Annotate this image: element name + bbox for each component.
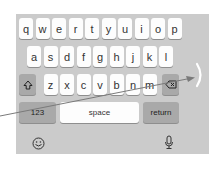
key-u[interactable]: u <box>118 18 132 39</box>
key-p[interactable]: p <box>168 18 182 39</box>
numbers-key[interactable]: 123 <box>19 102 56 123</box>
key-q[interactable]: q <box>19 18 33 39</box>
key-g[interactable]: g <box>93 46 107 67</box>
microphone-icon <box>164 135 174 150</box>
key-o[interactable]: o <box>151 18 165 39</box>
key-h[interactable]: h <box>110 46 124 67</box>
emoji-smiley-icon <box>32 137 45 150</box>
key-n[interactable]: n <box>126 74 140 95</box>
key-c[interactable]: c <box>77 74 91 95</box>
emoji-button[interactable] <box>32 136 45 154</box>
key-s[interactable]: s <box>44 46 58 67</box>
key-w[interactable]: w <box>36 18 50 39</box>
key-r[interactable]: r <box>69 18 83 39</box>
key-y[interactable]: y <box>102 18 116 39</box>
key-f[interactable]: f <box>77 46 91 67</box>
key-k[interactable]: k <box>143 46 157 67</box>
delete-key[interactable] <box>162 74 179 95</box>
key-v[interactable]: v <box>93 74 107 95</box>
key-i[interactable]: i <box>135 18 149 39</box>
key-j[interactable]: j <box>126 46 140 67</box>
shift-key[interactable] <box>19 74 36 95</box>
key-b[interactable]: b <box>110 74 124 95</box>
keyboard: q w e r t y u i o p a s d f g h j k l z … <box>16 14 209 154</box>
key-x[interactable]: x <box>60 74 74 95</box>
key-e[interactable]: e <box>52 18 66 39</box>
microphone-button[interactable] <box>164 135 174 154</box>
key-d[interactable]: d <box>60 46 74 67</box>
return-key[interactable]: return <box>143 102 179 123</box>
shift-arrow-icon <box>23 80 33 90</box>
key-z[interactable]: z <box>44 74 58 95</box>
backspace-icon <box>165 80 177 89</box>
key-m[interactable]: m <box>143 74 157 95</box>
key-l[interactable]: l <box>159 46 173 67</box>
key-a[interactable]: a <box>27 46 41 67</box>
space-key[interactable]: space <box>60 102 139 123</box>
key-t[interactable]: t <box>85 18 99 39</box>
